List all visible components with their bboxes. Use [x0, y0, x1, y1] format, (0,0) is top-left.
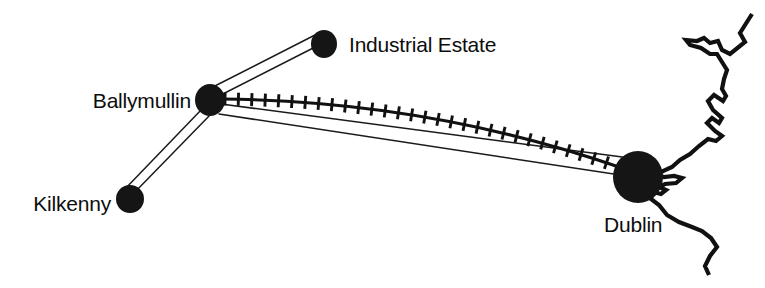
railway-tick: [476, 121, 479, 134]
railway-tick: [566, 144, 570, 156]
railway-tick: [345, 100, 346, 113]
east-coast-coastline-icon: [651, 14, 752, 275]
railway-tick: [371, 103, 373, 116]
railway-tick: [463, 118, 466, 131]
railway-tick: [592, 152, 596, 164]
railway-tick: [541, 137, 544, 150]
road-network-group: [124, 35, 630, 193]
settlement-node-ballymullin[interactable]: [195, 84, 225, 116]
road-edge-left: [205, 35, 315, 91]
settlement-node-dublin[interactable]: [613, 151, 663, 203]
railway-tick: [450, 115, 452, 128]
road-ballymullin-industrial-estate: [205, 35, 321, 99]
railway-tick: [489, 124, 492, 137]
railway-tick: [579, 148, 583, 160]
settlement-node-layer: [116, 30, 663, 213]
settlement-node-kilkenny[interactable]: [116, 185, 144, 213]
road-edge-right: [134, 114, 211, 193]
railway-tick: [305, 96, 306, 109]
railway-tick: [554, 141, 558, 153]
railway-spine: [222, 99, 622, 168]
railway-tick: [411, 108, 413, 121]
settlement-label-dublin: Dublin: [604, 213, 662, 236]
railway-tick: [291, 95, 292, 108]
railway-tick: [502, 127, 505, 140]
road-ballymullin-kilkenny: [124, 109, 211, 193]
railway-tick-group: [225, 93, 621, 174]
railway-tick: [437, 113, 439, 126]
railway-tick: [278, 94, 279, 107]
railway-tick: [318, 97, 319, 110]
railway-tick: [424, 111, 426, 124]
railway-ballymullin-dublin: [222, 93, 622, 174]
settlement-label-industrial-estate: Industrial Estate: [349, 33, 496, 56]
railway-tick: [397, 106, 399, 119]
railway-tick: [265, 94, 266, 107]
settlement-label-ballymullin: Ballymullin: [93, 89, 191, 112]
road-edge-right: [213, 44, 321, 99]
railway-tick: [384, 104, 386, 117]
map-canvas: Industrial EstateBallymullinKilkennyDubl…: [0, 0, 765, 288]
railway-tick: [604, 157, 608, 169]
transport-map-figure: Industrial EstateBallymullinKilkennyDubl…: [0, 0, 765, 288]
settlement-node-industrial-estate[interactable]: [311, 30, 337, 58]
railway-tick: [358, 101, 360, 114]
coastline-group: [651, 14, 752, 275]
railway-tick: [331, 98, 332, 111]
railway-tick: [515, 130, 518, 143]
road-edge-left: [124, 109, 202, 190]
settlement-label-kilkenny: Kilkenny: [33, 192, 111, 215]
